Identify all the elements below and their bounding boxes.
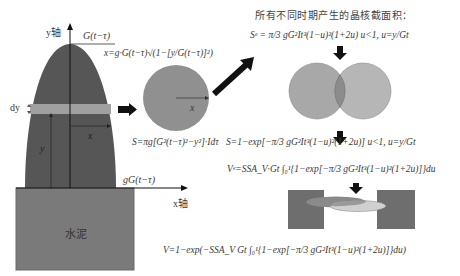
radius-label: x — [190, 102, 194, 113]
x-formula: x=g·G(t−τ)√(1−[y/G(t−τ)]²) — [104, 48, 213, 58]
ve-formula: Vᵉ=SSA_V·Gt ∫₀¹{1−exp[−π/3 gG²It³(1−u)²(… — [227, 164, 436, 174]
base-label: gG(t−τ) — [123, 174, 155, 185]
top-label: G(t−τ) — [83, 30, 110, 41]
dy-label: dy — [10, 102, 20, 113]
x-label: x — [88, 130, 92, 141]
block-right — [377, 190, 415, 229]
arrow-right-icon — [129, 103, 137, 116]
y-axis-arrow-icon — [67, 23, 73, 30]
arrow-right-body — [118, 106, 130, 113]
s-formula: S=1−exp[−π/3 gG²It³(1−u)²(1+2u)] u<1, u=… — [226, 137, 416, 147]
right-title: 所有不同时期产生的晶核截面积： — [255, 7, 413, 22]
down-arrow-body — [337, 46, 343, 54]
x-axis-arrow-icon — [181, 185, 188, 191]
y-label: y — [40, 143, 44, 154]
diagonal-arrow-body — [214, 64, 247, 94]
y-axis-label: y轴 — [46, 24, 61, 39]
down-arrow-icon — [349, 187, 363, 194]
area-formula: S=πg[G²(t−τ)²−y²]·Idτ — [132, 137, 219, 147]
down-arrow-icon — [333, 53, 347, 60]
v-formula: V=1−exp(−SSA_V Gt ∫₀¹{1−exp[−π/3 gG²It³(… — [163, 245, 406, 255]
x-axis-label: x轴 — [173, 195, 188, 210]
block-left — [288, 190, 324, 229]
se-formula: Sᵉ = π/3 gG²It³(1−u)²(1+2u) u<1, u=y/Gt — [250, 30, 409, 40]
cement-label: 水泥 — [65, 225, 87, 241]
